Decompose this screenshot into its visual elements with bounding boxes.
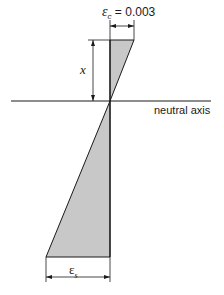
- depth-label: x: [80, 62, 86, 78]
- compression-strain-region: [110, 40, 134, 101]
- depth-dimension: [88, 40, 110, 101]
- neutral-axis-label: neutral axis: [154, 104, 210, 116]
- steel-strain-dimension: [46, 257, 110, 282]
- concrete-strain-dimension: [110, 20, 134, 40]
- steel-strain-label: εs: [69, 262, 78, 280]
- tension-strain-region: [46, 101, 110, 257]
- concrete-strain-label: εc = 0.003: [102, 4, 155, 21]
- strain-diagram: [0, 0, 224, 295]
